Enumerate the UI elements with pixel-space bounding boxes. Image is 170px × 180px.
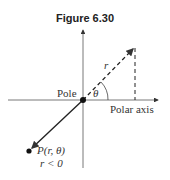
dashed-ray [83,49,133,100]
polar-diagram: Pole θ r Polar axis P(r, θ) r < 0 [0,0,170,180]
theta-arc [101,82,108,100]
pole-point [80,97,86,103]
polar-axis-label: Polar axis [110,103,154,115]
solid-ray [32,100,83,148]
condition-label: r < 0 [40,157,63,169]
pole-label: Pole [57,87,77,99]
r-label: r [104,59,109,71]
theta-label: θ [93,87,99,99]
point-p [26,148,31,153]
point-label: P(r, θ) [36,144,65,157]
